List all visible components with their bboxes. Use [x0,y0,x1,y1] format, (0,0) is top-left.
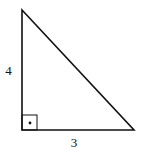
right-triangle-diagram: 4 3 [0,0,142,153]
right-angle-dot [29,122,32,125]
vertical-leg-label: 4 [5,63,12,78]
horizontal-leg-label: 3 [71,135,78,150]
triangle-outline [22,10,134,130]
